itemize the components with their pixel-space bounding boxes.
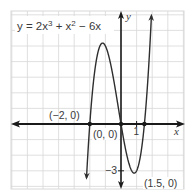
y-axis-label: y <box>125 10 131 22</box>
tick-label-x-one: 1 <box>134 126 140 137</box>
root-point-neg2 <box>88 122 92 126</box>
equation-label: y = 2x3 + x2 − 6x <box>17 19 101 32</box>
root-point-1-5 <box>142 122 146 126</box>
root-point-origin <box>119 122 123 126</box>
annotation-neg2-0: (−2, 0) <box>49 109 80 121</box>
annotation-origin: (0, 0) <box>93 128 118 140</box>
x-axis-label: x <box>173 125 179 137</box>
function-graph: y = 2x3 + x2 − 6x y x 1 −3 (−2, 0) (0, 0… <box>0 0 190 195</box>
annotation-1-5-0: (1.5, 0) <box>144 177 177 189</box>
tick-label-y-neg-three: −3 <box>105 164 117 176</box>
grid-lines <box>11 11 184 189</box>
